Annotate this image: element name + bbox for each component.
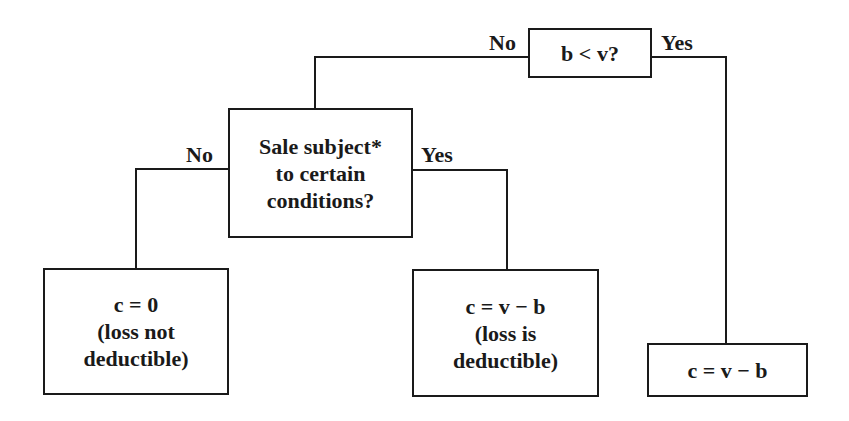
middle-no-label: No bbox=[186, 143, 213, 167]
leaf-middle-line-2: (loss is bbox=[475, 320, 537, 347]
root-decision-box: b < v? bbox=[528, 28, 652, 78]
leaf-loss-is-deductible: c = v − b (loss is deductible) bbox=[412, 269, 599, 397]
leaf-left-line-1: c = 0 bbox=[114, 291, 158, 318]
middle-question-line-2: to certain bbox=[276, 160, 366, 187]
root-no-connector-v bbox=[314, 56, 316, 109]
leaf-left-line-3: deductible) bbox=[83, 345, 188, 372]
middle-question-line-3: conditions? bbox=[267, 187, 375, 214]
middle-no-connector-v bbox=[135, 168, 137, 269]
root-no-label: No bbox=[489, 31, 516, 55]
leaf-middle-line-1: c = v − b bbox=[465, 293, 545, 320]
root-yes-connector-v bbox=[725, 56, 727, 344]
middle-decision-box: Sale subject* to certain conditions? bbox=[228, 108, 413, 238]
leaf-gain: c = v − b bbox=[647, 343, 808, 397]
leaf-right-line-1: c = v − b bbox=[687, 357, 767, 384]
middle-no-connector-h bbox=[136, 168, 229, 170]
root-question: b < v? bbox=[561, 40, 619, 67]
leaf-left-line-2: (loss not bbox=[97, 318, 175, 345]
leaf-middle-line-3: deductible) bbox=[453, 347, 558, 374]
middle-yes-connector-v bbox=[506, 169, 508, 270]
middle-yes-label: Yes bbox=[421, 143, 453, 167]
middle-question-line-1: Sale subject* bbox=[259, 133, 382, 160]
leaf-loss-not-deductible: c = 0 (loss not deductible) bbox=[43, 268, 229, 395]
middle-yes-connector-h bbox=[411, 169, 508, 171]
root-no-connector-h bbox=[315, 56, 529, 58]
root-yes-label: Yes bbox=[661, 31, 693, 55]
root-yes-connector-h bbox=[650, 56, 727, 58]
